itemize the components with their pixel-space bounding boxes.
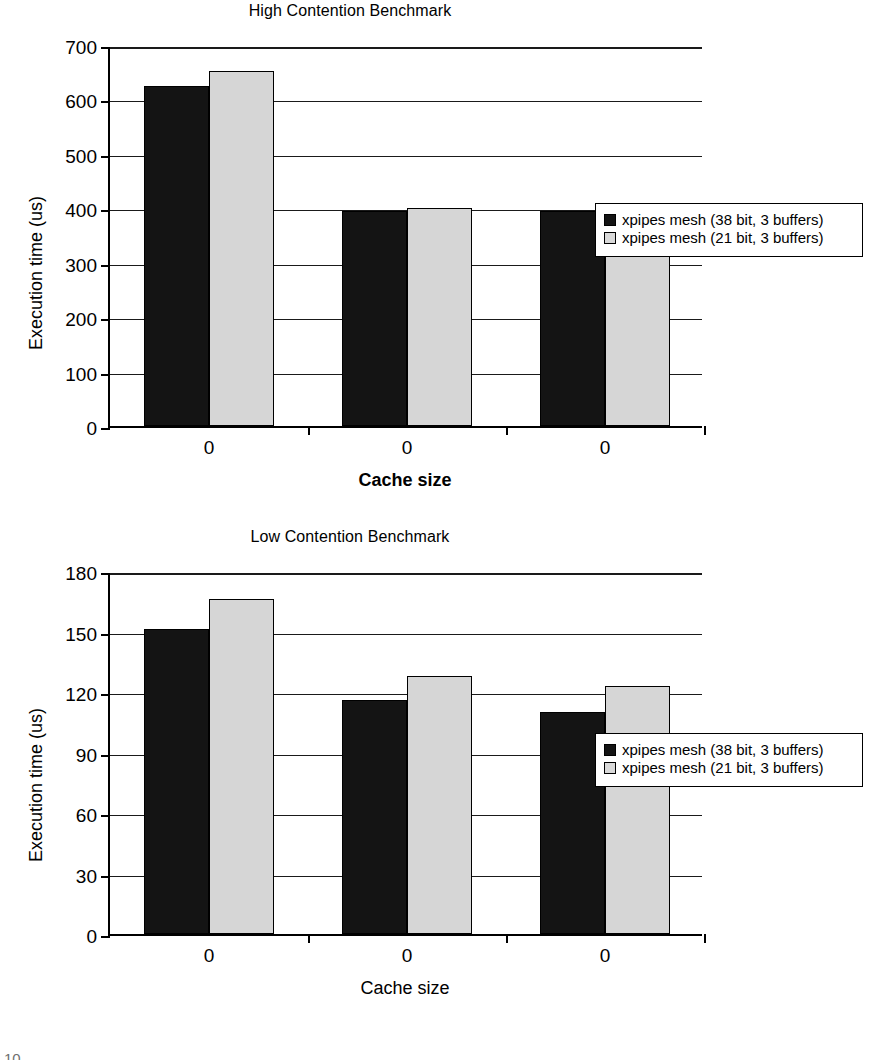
- y-axis-tick-label: 100: [65, 364, 97, 383]
- x-axis-tick-label: 0: [600, 946, 611, 965]
- x-axis-tick-mark: [308, 934, 310, 943]
- legend-item[interactable]: xpipes mesh (38 bit, 3 buffers): [604, 741, 853, 759]
- y-axis-label-low-contention: Execution time (us): [26, 708, 47, 862]
- x-axis-tick-mark: [506, 934, 508, 943]
- y-axis-tick-label: 500: [65, 146, 97, 165]
- bar-series-0-category-1: [342, 700, 407, 934]
- y-axis-tick-mark: [101, 319, 110, 321]
- x-axis-tick-label: 0: [402, 946, 413, 965]
- y-axis-tick-mark: [101, 634, 110, 636]
- bar-series-0-category-0: [144, 629, 209, 934]
- legend-low-contention: xpipes mesh (38 bit, 3 buffers) xpipes m…: [595, 733, 863, 787]
- gridline: [110, 47, 702, 49]
- legend-item[interactable]: xpipes mesh (38 bit, 3 buffers): [604, 211, 853, 229]
- y-axis-tick-label: 200: [65, 310, 97, 329]
- y-axis-tick-label: 400: [65, 201, 97, 220]
- bar-series-0-category-0: [144, 86, 209, 426]
- y-axis-tick-mark: [101, 428, 110, 430]
- bar-series-1-category-1: [407, 208, 472, 426]
- y-axis-tick-label: 150: [65, 624, 97, 643]
- y-axis-tick-label: 0: [86, 419, 97, 438]
- y-axis-tick-mark: [101, 755, 110, 757]
- legend-high-contention: xpipes mesh (38 bit, 3 buffers) xpipes m…: [595, 203, 863, 257]
- x-axis-tick-mark: [704, 426, 706, 435]
- y-axis-tick-label: 120: [65, 685, 97, 704]
- legend-swatch-series-0-icon: [604, 744, 616, 756]
- y-axis-tick-label: 90: [76, 745, 97, 764]
- legend-swatch-series-1-icon: [604, 232, 616, 244]
- x-axis-tick-mark: [506, 426, 508, 435]
- y-axis-tick-label: 300: [65, 255, 97, 274]
- legend-label: xpipes mesh (38 bit, 3 buffers): [622, 211, 824, 229]
- y-axis-tick-mark: [101, 936, 110, 938]
- y-axis-tick-mark: [101, 210, 110, 212]
- chart-title-low-contention: Low Contention Benchmark: [100, 528, 600, 546]
- x-axis-tick-mark: [704, 934, 706, 943]
- y-axis-tick-mark: [101, 876, 110, 878]
- y-axis-label-high-contention: Execution time (us): [26, 196, 47, 350]
- y-axis-tick-mark: [101, 265, 110, 267]
- x-axis-tick-label: 0: [600, 438, 611, 457]
- x-axis-tick-label: 0: [204, 946, 215, 965]
- chart-title-high-contention: High Contention Benchmark: [100, 2, 600, 20]
- y-axis-tick-mark: [101, 47, 110, 49]
- legend-item[interactable]: xpipes mesh (21 bit, 3 buffers): [604, 759, 853, 777]
- y-axis-tick-mark: [101, 815, 110, 817]
- y-axis-tick-mark: [101, 573, 110, 575]
- y-axis-tick-label: 60: [76, 806, 97, 825]
- page-number-artifact: 10: [4, 1050, 21, 1060]
- y-axis-tick-label: 600: [65, 92, 97, 111]
- y-axis-tick-mark: [101, 694, 110, 696]
- x-axis-tick-label: 0: [402, 438, 413, 457]
- x-axis-label-high-contention: Cache size: [108, 470, 702, 491]
- legend-label: xpipes mesh (21 bit, 3 buffers): [622, 759, 824, 777]
- y-axis-tick-label: 0: [86, 927, 97, 946]
- y-axis-tick-label: 700: [65, 38, 97, 57]
- x-axis-tick-label: 0: [204, 438, 215, 457]
- chart-high-contention: High Contention Benchmark Execution time…: [0, 0, 875, 500]
- legend-item[interactable]: xpipes mesh (21 bit, 3 buffers): [604, 229, 853, 247]
- gridline: [110, 573, 702, 575]
- bar-series-1-category-0: [209, 71, 274, 426]
- x-axis-label-low-contention: Cache size: [108, 978, 702, 999]
- bar-series-1-category-0: [209, 599, 274, 934]
- chart-low-contention: Low Contention Benchmark Execution time …: [0, 512, 875, 1042]
- legend-label: xpipes mesh (38 bit, 3 buffers): [622, 741, 824, 759]
- legend-swatch-series-0-icon: [604, 214, 616, 226]
- bar-series-0-category-1: [342, 211, 407, 426]
- y-axis-tick-label: 30: [76, 866, 97, 885]
- y-axis-tick-mark: [101, 156, 110, 158]
- x-axis-tick-mark: [308, 426, 310, 435]
- legend-swatch-series-1-icon: [604, 762, 616, 774]
- legend-label: xpipes mesh (21 bit, 3 buffers): [622, 229, 824, 247]
- y-axis-tick-label: 180: [65, 564, 97, 583]
- y-axis-tick-mark: [101, 101, 110, 103]
- bar-series-1-category-2: [605, 686, 670, 934]
- bar-series-1-category-1: [407, 676, 472, 934]
- y-axis-tick-mark: [101, 374, 110, 376]
